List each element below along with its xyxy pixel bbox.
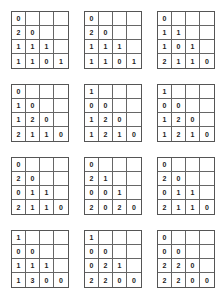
grid-cell: 0 (12, 12, 26, 26)
grid-cell: 2 (172, 113, 186, 127)
grid-cell: 2 (158, 273, 172, 287)
grid-cell (113, 12, 127, 26)
grid-cell: 0 (12, 85, 26, 99)
grid-cell: 0 (158, 158, 172, 172)
grid-cell: 0 (40, 54, 54, 68)
grid-cell (40, 245, 54, 259)
grid-cell: 0 (113, 113, 127, 127)
grid-cell: 0 (127, 273, 141, 287)
grid-cell: 0 (158, 12, 172, 26)
grid-cell: 2 (26, 113, 40, 127)
grid-cell: 1 (12, 273, 26, 287)
grid-cell (200, 172, 214, 186)
grid-cell: 0 (99, 245, 113, 259)
grid-cell: 0 (200, 54, 214, 68)
grid-cell: 2 (172, 127, 186, 141)
grid-cell (113, 172, 127, 186)
grid-cell: 1 (12, 40, 26, 54)
grid-cell: 1 (54, 54, 68, 68)
grid-cell (54, 186, 68, 200)
grid-cell (127, 12, 141, 26)
grid-cell: 1 (186, 127, 200, 141)
grid-cell: 1 (172, 26, 186, 40)
grid-cell: 1 (127, 54, 141, 68)
grid-cell: 1 (158, 113, 172, 127)
grid-cell (26, 12, 40, 26)
grid-cell (113, 231, 127, 245)
grid-cell: 0 (26, 245, 40, 259)
grid-cell: 1 (113, 40, 127, 54)
grid-cell (127, 99, 141, 113)
grid-cell: 0 (99, 99, 113, 113)
grid-cell (113, 85, 127, 99)
grid-cell (54, 85, 68, 99)
grid-cell: 0 (200, 200, 214, 214)
grid-cell (99, 85, 113, 99)
grid-cell: 2 (99, 273, 113, 287)
grid-cell (26, 158, 40, 172)
grid-cell (200, 113, 214, 127)
grid-cell (127, 245, 141, 259)
grid-cell: 0 (113, 54, 127, 68)
grid-cell: 1 (186, 54, 200, 68)
grid-cell (186, 85, 200, 99)
grid-cell (200, 186, 214, 200)
grid-cell: 2 (158, 200, 172, 214)
grid-cell (26, 231, 40, 245)
grid-cell: 1 (12, 54, 26, 68)
grid-cell: 1 (40, 40, 54, 54)
grid-cell: 0 (99, 200, 113, 214)
grid-cell: 0 (85, 259, 99, 273)
grid-cell: 1 (12, 259, 26, 273)
grid-cell: 1 (26, 200, 40, 214)
grid-cell (54, 12, 68, 26)
grid-cell: 1 (158, 127, 172, 141)
grid-cell: 0 (26, 26, 40, 40)
grid-cell (200, 259, 214, 273)
grid-cell (40, 172, 54, 186)
grid-cell: 0 (12, 186, 26, 200)
grid-cell: 0 (200, 127, 214, 141)
number-grid: 0111012110 (157, 11, 215, 69)
grid-cell: 1 (40, 186, 54, 200)
grid-cell: 0 (99, 26, 113, 40)
grid-cell (40, 158, 54, 172)
grid-cell: 0 (186, 113, 200, 127)
grid-cell (40, 231, 54, 245)
grid-cell: 2 (158, 54, 172, 68)
grid-cell: 2 (12, 26, 26, 40)
grid-cell: 1 (99, 40, 113, 54)
grid-cell: 1 (99, 54, 113, 68)
grid-cell: 2 (158, 172, 172, 186)
number-grid: 1000212200 (84, 230, 142, 288)
grid-cell: 1 (172, 186, 186, 200)
grid-cell (186, 99, 200, 113)
grid-cell (186, 231, 200, 245)
grid-cell: 0 (158, 231, 172, 245)
grid-cell (127, 85, 141, 99)
grid-cell: 0 (54, 273, 68, 287)
grid-cell (40, 26, 54, 40)
grid-cell: 0 (158, 186, 172, 200)
grid-cell: 2 (12, 172, 26, 186)
grid-cell (186, 26, 200, 40)
grid-cell (127, 186, 141, 200)
grid-cell: 2 (99, 127, 113, 141)
grid-cell: 1 (85, 40, 99, 54)
grid-cell: 1 (26, 127, 40, 141)
grid-cell: 0 (186, 273, 200, 287)
grid-cell: 0 (158, 245, 172, 259)
grid-cell: 0 (113, 273, 127, 287)
grid-cell: 1 (40, 259, 54, 273)
grid-cell: 1 (186, 186, 200, 200)
grid-cell: 2 (85, 26, 99, 40)
grid-cell: 0 (172, 40, 186, 54)
grid-cell: 1 (40, 200, 54, 214)
grid-cell (200, 85, 214, 99)
grid-cell (200, 26, 214, 40)
grid-cell (54, 231, 68, 245)
grid-cell (172, 158, 186, 172)
number-grid: 0210012020 (84, 157, 142, 215)
number-grid: 0201111101 (11, 11, 69, 69)
grid-cell (200, 99, 214, 113)
